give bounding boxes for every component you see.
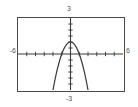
axes-group (18, 18, 123, 90)
y-max-label: 3 (0, 5, 138, 13)
plot-area (18, 18, 124, 91)
graphing-calculator-screenshot: 3 -6 6 -3 (0, 0, 138, 107)
plot-frame (17, 17, 125, 92)
graph-canvas (18, 18, 123, 90)
x-max-label: 6 (126, 47, 138, 55)
y-min-label: -3 (0, 95, 138, 103)
x-min-label: -6 (1, 47, 16, 55)
